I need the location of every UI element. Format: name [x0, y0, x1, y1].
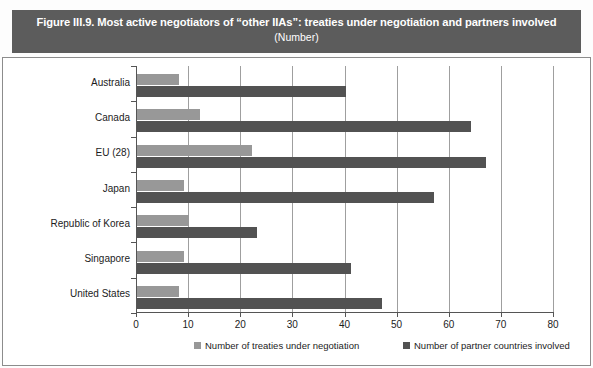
figure-subtitle: (Number)	[12, 30, 581, 44]
legend-item-partners[interactable]: Number of partner countries involved	[403, 340, 570, 351]
bar-australia-series-0	[137, 74, 179, 85]
bar-republic-of-korea-series-0	[137, 215, 189, 226]
x-axis-tick-label: 30	[277, 319, 307, 330]
y-axis-tick	[131, 137, 136, 138]
figure-title: Figure III.9. Most active negotiators of…	[12, 15, 581, 29]
bar-united-states-series-1	[137, 298, 382, 309]
y-axis-tick	[131, 66, 136, 67]
legend-item-treaties[interactable]: Number of treaties under negotiation	[194, 340, 359, 351]
bar-australia-series-1	[137, 86, 346, 97]
gridline	[188, 66, 189, 313]
y-axis-tick	[131, 172, 136, 173]
gridline	[449, 66, 450, 313]
chart-legend: Number of treaties under negotiation Num…	[136, 340, 566, 356]
legend-label-partners: Number of partner countries involved	[414, 340, 570, 351]
gridline	[345, 66, 346, 313]
x-axis-tick	[292, 313, 293, 317]
y-axis-tick	[131, 207, 136, 208]
x-axis-tick-label: 70	[486, 319, 516, 330]
x-axis-tick-label: 50	[382, 319, 412, 330]
y-axis-tick	[131, 242, 136, 243]
category-label-japan: Japan	[6, 183, 130, 194]
category-label-united-states: United States	[6, 288, 130, 299]
x-axis-tick-label: 0	[121, 319, 151, 330]
bar-japan-series-0	[137, 180, 184, 191]
x-axis-tick	[188, 313, 189, 317]
plot-area	[136, 66, 553, 313]
gridline	[292, 66, 293, 313]
gridline	[553, 66, 554, 313]
category-label-eu-28-: EU (28)	[6, 147, 130, 158]
category-label-republic-of-korea: Republic of Korea	[6, 218, 130, 229]
y-axis-tick	[131, 313, 136, 314]
x-axis-tick	[553, 313, 554, 317]
gridline	[501, 66, 502, 313]
bar-united-states-series-0	[137, 286, 179, 297]
legend-label-treaties: Number of treaties under negotiation	[205, 340, 359, 351]
legend-swatch-icon-partners	[403, 342, 410, 349]
figure-root: Figure III.9. Most active negotiators of…	[0, 0, 593, 368]
category-axis-labels: AustraliaCanadaEU (28)JapanRepublic of K…	[0, 66, 130, 313]
bar-canada-series-1	[137, 121, 471, 132]
bar-republic-of-korea-series-1	[137, 227, 257, 238]
y-axis-tick	[131, 278, 136, 279]
bar-eu-28--series-0	[137, 145, 252, 156]
legend-swatch-icon-treaties	[194, 342, 201, 349]
gridline	[240, 66, 241, 313]
gridline	[397, 66, 398, 313]
category-label-canada: Canada	[6, 112, 130, 123]
category-label-singapore: Singapore	[6, 253, 130, 264]
figure-title-banner: Figure III.9. Most active negotiators of…	[12, 10, 581, 53]
bar-singapore-series-0	[137, 251, 184, 262]
x-axis-tick-label: 60	[434, 319, 464, 330]
bar-canada-series-0	[137, 109, 200, 120]
category-label-australia: Australia	[6, 77, 130, 88]
bar-eu-28--series-1	[137, 157, 486, 168]
x-axis-tick	[397, 313, 398, 317]
x-axis-tick-label: 20	[225, 319, 255, 330]
bar-singapore-series-1	[137, 263, 351, 274]
x-axis-tick	[240, 313, 241, 317]
x-axis-tick-label: 40	[330, 319, 360, 330]
x-axis-tick	[501, 313, 502, 317]
y-axis-line	[136, 66, 137, 313]
x-axis-tick	[345, 313, 346, 317]
y-axis-tick	[131, 101, 136, 102]
x-axis-tick	[449, 313, 450, 317]
bar-japan-series-1	[137, 192, 434, 203]
x-axis-tick	[136, 313, 137, 317]
x-axis-tick-label: 80	[538, 319, 568, 330]
x-axis-tick-label: 10	[173, 319, 203, 330]
